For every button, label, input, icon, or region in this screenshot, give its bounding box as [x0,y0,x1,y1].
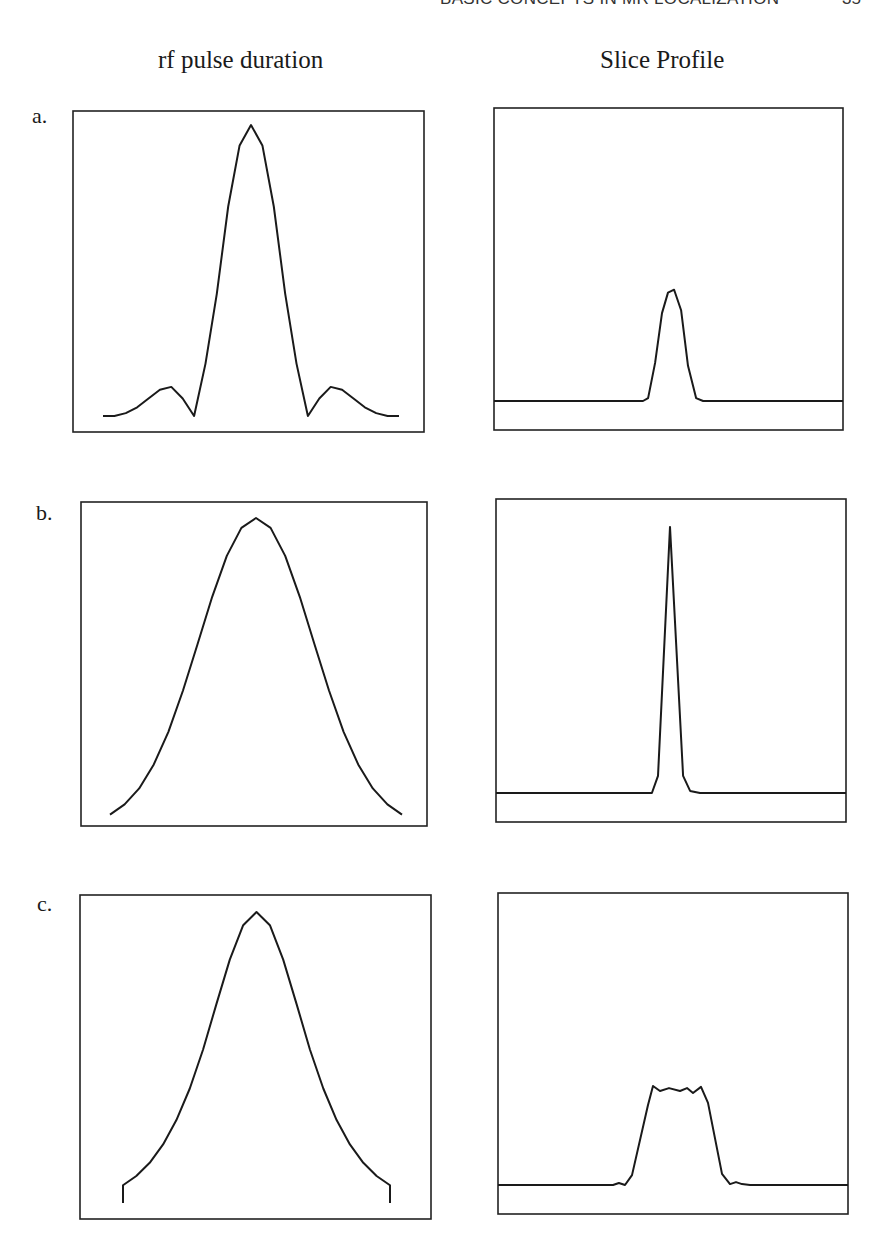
chart-panel-a-slice [494,108,843,430]
plot-frame [73,111,424,432]
slice-profile-line [496,527,846,793]
slice-profile-line [494,290,843,401]
rf-pulse-line [103,125,399,416]
plot-frame [80,895,431,1219]
chart-panel-b-slice [496,499,846,822]
chart-panel-c-rf [80,895,431,1219]
plot-frame [494,108,843,430]
chart-panel-c-slice [498,893,848,1214]
rf-pulse-line [110,518,402,815]
plot-frame [81,502,427,826]
chart-panel-a-rf [73,111,424,432]
chart-panel-b-rf [81,502,427,826]
plot-frame [498,893,848,1214]
slice-profile-line [498,1086,848,1185]
figure [0,0,890,1238]
rf-pulse-line [123,912,390,1203]
